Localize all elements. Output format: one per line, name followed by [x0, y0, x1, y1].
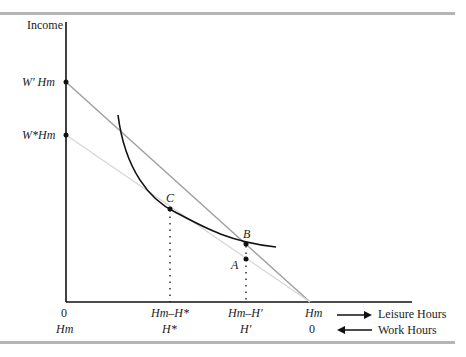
x-tick-leisure-0: 0: [61, 306, 67, 321]
x-tick-work-3: 0: [309, 322, 315, 337]
label-b: B: [243, 227, 250, 242]
point-b: [244, 242, 249, 247]
labor-supply-diagram: [0, 0, 466, 357]
x-tick-leisure-1: Hm–H*: [151, 306, 189, 321]
y-axis-label: Income: [27, 18, 63, 33]
point-wprime-hm: [64, 80, 69, 85]
point-a: [244, 257, 249, 262]
x-tick-leisure-3: Hm: [305, 306, 322, 321]
label-a: A: [231, 258, 238, 273]
indifference-curve: [118, 115, 276, 247]
work-hours-label: Work Hours: [378, 323, 437, 338]
leisure-hours-label: Leisure Hours: [378, 307, 446, 322]
x-tick-work-0: Hm: [56, 322, 73, 337]
x-tick-work-2: H′: [240, 322, 251, 337]
x-tick-work-1: H*: [162, 322, 177, 337]
tick-wstar-hm: W*Hm: [22, 128, 55, 143]
point-c: [168, 207, 173, 212]
point-wstar-hm: [64, 133, 69, 138]
x-tick-leisure-2: Hm–H′: [228, 306, 263, 321]
label-c: C: [166, 191, 174, 206]
budget-line-high: [66, 82, 310, 302]
tick-wprime-hm: W′ Hm: [22, 75, 55, 90]
